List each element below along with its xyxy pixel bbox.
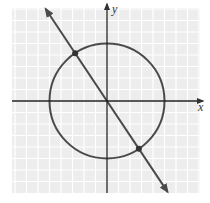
y-axis-label: y [111, 2, 118, 16]
x-axis-label: x [197, 100, 204, 114]
intersection-point [72, 50, 78, 56]
intersection-point [136, 146, 142, 152]
graph: x y [0, 0, 210, 203]
